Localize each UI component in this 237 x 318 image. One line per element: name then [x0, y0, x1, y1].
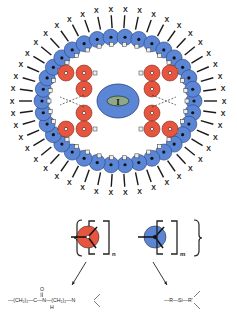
terminal-x-label: X — [43, 30, 48, 37]
branch-point — [46, 123, 49, 126]
right-brace — [194, 220, 202, 256]
linker-square — [65, 137, 69, 141]
spoke — [124, 15, 125, 28]
linker-square — [122, 156, 126, 160]
arrow-to-silane — [153, 262, 167, 285]
branch-point — [46, 76, 49, 79]
arrow-to-amide — [72, 262, 86, 285]
terminal-x-label: X — [14, 122, 19, 129]
spoke — [185, 147, 195, 155]
branch-point — [150, 71, 153, 74]
branch-point — [123, 36, 126, 39]
linker-square — [139, 127, 143, 131]
branch-point — [71, 150, 74, 153]
spoke — [197, 130, 209, 135]
terminal-x-label: X — [10, 98, 15, 105]
spoke — [177, 38, 186, 48]
silane-chain: —R—Si—R' — [164, 297, 193, 303]
terminal-x-label: X — [218, 73, 223, 80]
terminal-x-label: X — [25, 145, 30, 152]
linker-square — [135, 154, 139, 158]
spoke — [197, 67, 209, 72]
branch-point — [52, 133, 55, 136]
linker-square — [93, 71, 97, 75]
branch-point — [60, 143, 63, 146]
terminal-x-label: X — [222, 98, 227, 105]
spoke — [85, 20, 89, 32]
spoke — [147, 20, 151, 32]
branch-point — [82, 127, 85, 130]
branch-point — [60, 56, 63, 59]
spoke — [135, 172, 138, 185]
spoke — [85, 170, 89, 182]
spoke — [158, 25, 164, 37]
terminal-x-label: X — [137, 7, 142, 14]
terminal-x-label: X — [177, 173, 182, 180]
branch-point — [181, 133, 184, 136]
spoke — [201, 78, 214, 82]
core: I — [97, 84, 139, 118]
carbonyl-oxygen: O — [40, 286, 44, 292]
amide-chain: —(CH₂)₂—C—N—(CH₂)₂—N — [8, 297, 75, 303]
spoke — [177, 154, 186, 164]
dashed-link — [60, 95, 84, 105]
branch-point — [52, 66, 55, 69]
linker-square — [180, 78, 184, 82]
linker-square — [52, 78, 56, 82]
branch-point — [168, 71, 171, 74]
terminal-x-label: X — [206, 50, 211, 57]
terminal-x-label: X — [80, 11, 85, 18]
terminal-x-label: X — [151, 184, 156, 191]
spoke — [72, 25, 78, 37]
spoke — [191, 139, 202, 146]
branch-point — [109, 163, 112, 166]
terminal-x-label: X — [18, 134, 23, 141]
branch-point — [187, 76, 190, 79]
spoke — [98, 17, 101, 30]
terminal-x-label: X — [177, 22, 182, 29]
core-label: I — [116, 97, 120, 107]
spoke — [33, 139, 44, 146]
branch-point — [42, 111, 45, 114]
branch-point — [137, 161, 140, 164]
spoke — [201, 121, 214, 125]
branch-point — [191, 111, 194, 114]
branch-point — [96, 161, 99, 164]
spoke — [158, 166, 164, 178]
terminal-x-label: X — [164, 16, 169, 23]
branch-point — [96, 38, 99, 41]
terminal-x-label: X — [14, 73, 19, 80]
linker-square — [110, 42, 114, 46]
branch-point — [82, 71, 85, 74]
branch-point — [82, 111, 85, 114]
branch-point — [42, 88, 45, 91]
spoke — [41, 47, 51, 55]
spoke — [147, 170, 151, 182]
spoke — [168, 161, 175, 172]
terminal-x-label: X — [137, 188, 142, 195]
amide-formula: —(CH₂)₂—C—N—(CH₂)₂—N O H — [8, 286, 100, 310]
branch-point — [173, 143, 176, 146]
branch-point — [40, 99, 43, 102]
linker-square — [97, 44, 101, 48]
spoke — [61, 31, 68, 42]
linker-square — [48, 89, 52, 93]
terminal-x-label: X — [151, 11, 156, 18]
linker-square — [158, 54, 162, 58]
linker-square — [97, 154, 101, 158]
branch-point — [150, 157, 153, 160]
terminal-x-label: X — [55, 22, 60, 29]
spoke — [50, 38, 59, 48]
branch-point — [109, 36, 112, 39]
linker-square — [135, 44, 139, 48]
linker-square — [85, 48, 89, 52]
dashed-link — [60, 97, 84, 107]
branch-point — [82, 87, 85, 90]
terminal-x-label: X — [67, 16, 72, 23]
spoke — [20, 89, 33, 91]
dashed-link — [152, 95, 176, 105]
terminal-x-label: X — [108, 189, 113, 196]
linker-square — [180, 120, 184, 124]
linker-square — [74, 144, 78, 148]
branch-point — [86, 235, 90, 239]
